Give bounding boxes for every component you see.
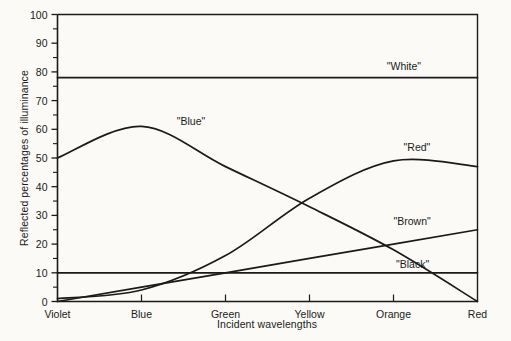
plot-area xyxy=(0,0,511,341)
chart-figure: Reflected percentages of illuminance Inc… xyxy=(0,0,511,341)
y-tick-label: 40 xyxy=(18,182,48,193)
series-label: "Blue" xyxy=(177,116,205,127)
y-tick-label: 20 xyxy=(18,239,48,250)
x-tick-label: Green xyxy=(191,309,261,320)
y-tick-label: 100 xyxy=(18,10,48,21)
x-axis-title: Incident wavelengths xyxy=(57,318,477,330)
series-line xyxy=(58,159,478,298)
x-tick-label: Blue xyxy=(107,309,177,320)
x-tick-label: Violet xyxy=(23,309,93,320)
y-tick-label: 70 xyxy=(18,96,48,107)
x-tick-label: Yellow xyxy=(275,309,345,320)
series-label: "Black" xyxy=(396,259,429,270)
series-line xyxy=(58,126,478,301)
y-tick-label: 50 xyxy=(18,153,48,164)
series-label: "Brown" xyxy=(394,216,431,227)
y-tick-label: 10 xyxy=(18,268,48,279)
x-tick-label: Orange xyxy=(359,309,429,320)
tick-marks xyxy=(52,15,394,302)
y-tick-label: 60 xyxy=(18,124,48,135)
y-tick-label: 80 xyxy=(18,67,48,78)
y-tick-label: 30 xyxy=(18,210,48,221)
x-tick-label: Red xyxy=(443,309,511,320)
y-tick-label: 0 xyxy=(18,297,48,308)
series-label: "Red" xyxy=(404,142,431,153)
y-tick-label: 90 xyxy=(18,38,48,49)
series-label: "White" xyxy=(387,61,421,72)
